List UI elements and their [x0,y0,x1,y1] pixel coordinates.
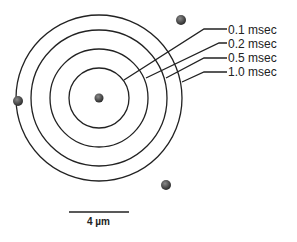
particle [13,96,23,106]
ring-label: 1.0 msec [228,66,277,78]
leader-line-0-2 [146,43,227,78]
particle-center [95,94,104,103]
ring-label: 0.5 msec [228,52,277,64]
leader-line-1-0 [182,72,227,82]
ring-label: 0.2 msec [228,38,277,50]
ring-label: 0.1 msec [228,24,277,36]
particle [176,15,186,25]
particle [161,180,171,190]
scale-bar-label: 4 µm [87,216,110,227]
